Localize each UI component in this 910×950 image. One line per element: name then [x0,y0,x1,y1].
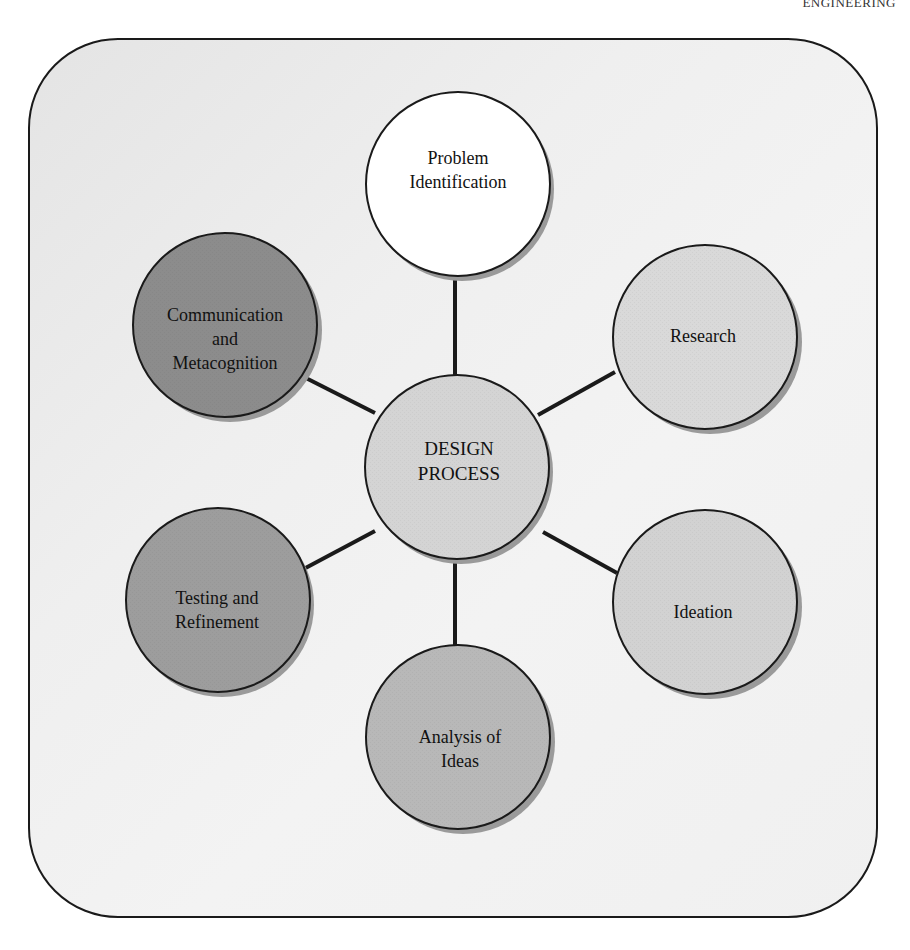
connector-research [538,372,615,415]
label-research: Research [670,324,736,348]
label-design-process: DESIGN PROCESS [418,436,500,486]
connector-communication-and-metacognition [298,374,375,413]
label-testing-and-refinement: Testing and Refinement [175,586,259,634]
connector-ideation [543,532,617,573]
connector-testing-and-refinement [298,531,375,572]
label-communication-and-metacognition: Communication and Metacognition [167,303,283,375]
label-analysis-of-ideas: Analysis of Ideas [419,725,502,773]
label-problem-identification: Problem Identification [410,146,507,194]
label-ideation: Ideation [674,600,733,624]
